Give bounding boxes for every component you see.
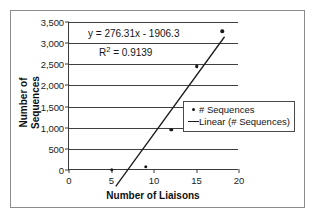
legend-label-linear: Linear (# Sequences) bbox=[199, 116, 290, 128]
line-marker-icon bbox=[187, 121, 199, 122]
x-axis-tick-label: 20 bbox=[234, 175, 245, 186]
y-axis-tick-label: 2,500 bbox=[41, 59, 64, 70]
r-squared-value: = 0.9139 bbox=[113, 47, 152, 58]
legend-item-linear: Linear (# Sequences) bbox=[187, 116, 291, 128]
x-axis-title: Number of Liaisons bbox=[68, 190, 238, 201]
y-axis-tick-mark bbox=[65, 64, 69, 65]
y-axis-tick-label: 3,500 bbox=[41, 17, 64, 28]
data-point bbox=[195, 65, 199, 69]
y-axis-tick-label: 2,000 bbox=[41, 80, 64, 91]
gridline bbox=[69, 149, 238, 150]
legend: # Sequences Linear (# Sequences) bbox=[183, 101, 295, 132]
r-squared-exponent: 2 bbox=[106, 45, 110, 54]
y-axis-tick-label: 1,500 bbox=[41, 101, 64, 112]
x-axis-tick-mark bbox=[69, 169, 70, 173]
r-squared-annotation: R2 = 0.9139 bbox=[99, 45, 152, 58]
gridline bbox=[69, 64, 238, 65]
y-axis-tick-label: 0 bbox=[59, 165, 64, 176]
gridline bbox=[69, 43, 238, 44]
legend-label-sequences: # Sequences bbox=[199, 104, 254, 116]
y-axis-title-line-2: Sequences bbox=[29, 76, 41, 129]
data-point bbox=[110, 168, 114, 172]
data-point bbox=[169, 128, 173, 132]
y-axis-tick-label: 1,000 bbox=[41, 122, 64, 133]
legend-item-sequences: # Sequences bbox=[187, 104, 291, 116]
y-axis-tick-mark bbox=[65, 148, 69, 149]
x-axis-tick-label: 0 bbox=[66, 175, 71, 186]
y-axis-title-line-1: Number of bbox=[18, 76, 30, 129]
x-axis-tick-mark bbox=[196, 169, 197, 173]
plot-area: 05001,0001,5002,0002,5003,0003,500051015… bbox=[68, 22, 238, 170]
x-axis-tick-label: 5 bbox=[109, 175, 114, 186]
y-axis-tick-mark bbox=[65, 106, 69, 107]
equation-annotation: y = 276.31x - 1906.3 bbox=[88, 28, 179, 39]
y-axis-tick-mark bbox=[65, 85, 69, 86]
x-axis-tick-label: 15 bbox=[191, 175, 202, 186]
data-point bbox=[144, 165, 148, 169]
x-axis-tick-mark bbox=[239, 169, 240, 173]
gridline bbox=[69, 85, 238, 86]
dot-marker-icon bbox=[187, 108, 199, 111]
plot-inner: 05001,0001,5002,0002,5003,0003,500051015… bbox=[69, 22, 238, 169]
data-point bbox=[220, 30, 224, 34]
x-axis-tick-mark bbox=[154, 169, 155, 173]
y-axis-tick-mark bbox=[65, 127, 69, 128]
y-axis-title: Number of Sequences bbox=[14, 52, 44, 152]
x-axis-tick-label: 10 bbox=[149, 175, 160, 186]
gridline bbox=[69, 22, 238, 23]
y-axis-tick-mark bbox=[65, 43, 69, 44]
y-axis-tick-mark bbox=[65, 22, 69, 23]
y-axis-tick-label: 3,000 bbox=[41, 38, 64, 49]
y-axis-tick-label: 500 bbox=[48, 143, 64, 154]
chart-figure: 05001,0001,5002,0002,5003,0003,500051015… bbox=[0, 0, 316, 222]
